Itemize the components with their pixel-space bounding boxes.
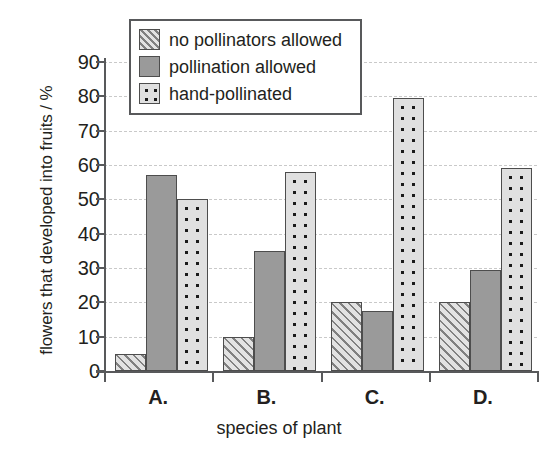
y-tick-label: 40 bbox=[56, 224, 100, 244]
legend-item: hand-pollinated bbox=[139, 80, 353, 107]
gridline bbox=[104, 165, 537, 166]
legend-swatch-solid-icon bbox=[139, 56, 160, 77]
y-tick-label: 20 bbox=[56, 292, 100, 312]
bar bbox=[470, 270, 501, 371]
y-tick-mark bbox=[96, 198, 105, 200]
y-tick-mark bbox=[96, 233, 105, 235]
x-tick-mark bbox=[104, 371, 106, 382]
y-tick-mark bbox=[96, 130, 105, 132]
bar bbox=[223, 337, 254, 371]
y-tick-label: 0 bbox=[56, 361, 100, 381]
y-axis-tick-labels: 0102030405060708090 bbox=[56, 0, 100, 456]
legend-swatch-hatched-icon bbox=[139, 29, 160, 50]
legend-label: no pollinators allowed bbox=[169, 31, 342, 49]
chart-legend: no pollinators allowedpollination allowe… bbox=[129, 19, 362, 115]
x-axis-line bbox=[96, 371, 539, 373]
y-tick-mark bbox=[96, 95, 105, 97]
y-tick-mark bbox=[96, 267, 105, 269]
x-tick-label: D. bbox=[438, 386, 528, 409]
y-tick-mark bbox=[96, 301, 105, 303]
legend-label: hand-pollinated bbox=[169, 85, 292, 103]
legend-item: no pollinators allowed bbox=[139, 26, 353, 53]
bar bbox=[177, 199, 208, 371]
y-tick-mark bbox=[96, 61, 105, 63]
x-axis-title: species of plant bbox=[0, 418, 558, 439]
y-axis-title: flowers that developed into fruits / % bbox=[37, 55, 57, 385]
y-tick-mark bbox=[96, 336, 105, 338]
bar bbox=[115, 354, 146, 371]
x-tick-label: A. bbox=[113, 386, 203, 409]
x-tick-label: C. bbox=[330, 386, 420, 409]
y-tick-label: 90 bbox=[56, 52, 100, 72]
bar bbox=[501, 168, 532, 371]
gridline bbox=[104, 131, 537, 132]
x-tick-mark bbox=[321, 371, 323, 382]
y-tick-mark bbox=[96, 164, 105, 166]
x-tick-mark bbox=[537, 371, 539, 382]
y-tick-label: 60 bbox=[56, 155, 100, 175]
x-tick-mark bbox=[429, 371, 431, 382]
bar bbox=[393, 98, 424, 371]
y-tick-label: 10 bbox=[56, 327, 100, 347]
bar-chart: flowers that developed into fruits / % 0… bbox=[0, 0, 558, 456]
y-tick-label: 50 bbox=[56, 189, 100, 209]
legend-swatch-dotted-icon bbox=[139, 83, 160, 104]
y-tick-label: 80 bbox=[56, 86, 100, 106]
legend-item: pollination allowed bbox=[139, 53, 353, 80]
x-tick-label: B. bbox=[221, 386, 311, 409]
y-tick-label: 70 bbox=[56, 121, 100, 141]
bar bbox=[285, 172, 316, 371]
bar bbox=[331, 302, 362, 371]
y-tick-label: 30 bbox=[56, 258, 100, 278]
bar bbox=[254, 251, 285, 371]
y-axis-line bbox=[104, 58, 106, 375]
bar bbox=[146, 175, 177, 371]
x-tick-mark bbox=[212, 371, 214, 382]
bar bbox=[362, 311, 393, 371]
legend-label: pollination allowed bbox=[169, 58, 316, 76]
bar bbox=[439, 302, 470, 371]
